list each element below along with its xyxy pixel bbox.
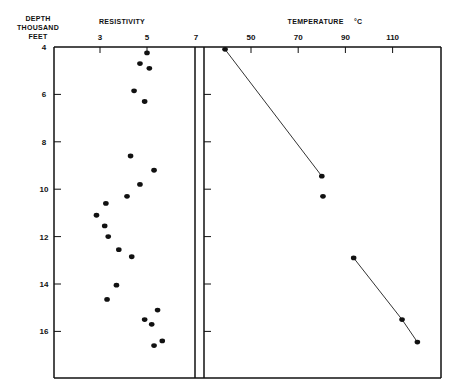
resistivity-point [151,343,157,348]
depth-tick-label: 12 [40,233,49,242]
temperature-point [319,174,325,179]
temperature-point [399,317,405,322]
resistivity-point [114,283,120,288]
resistivity-point [102,224,108,229]
resistivity-tick-label: 5 [145,33,150,42]
temperature-tick-label: 90 [341,33,350,42]
depth-tick-label: 4 [42,43,47,52]
depth-tick-label: 10 [40,185,49,194]
resistivity-point [147,66,153,71]
resistivity-point [128,154,134,159]
resistivity-point [149,322,155,327]
temperature-point [320,194,326,199]
resistivity-point [131,88,137,93]
resistivity-point [94,213,100,218]
depth-tick-label: 16 [40,327,49,336]
depth-tick-label: 6 [42,90,47,99]
temperature-point [222,47,228,52]
resistivity-point [104,297,110,302]
resistivity-point [105,234,111,239]
resistivity-point [103,201,109,206]
temperature-tick-label: 70 [294,33,303,42]
resistivity-point [151,168,157,173]
resistivity-point [159,338,165,343]
temperature-line [225,49,322,176]
resistivity-point [155,308,161,313]
resistivity-point [137,182,143,187]
resistivity-point [124,194,130,199]
resistivity-tick-label: 3 [98,33,103,42]
resistivity-tick-label: 7 [194,33,199,42]
temperature-tick-label: 50 [247,33,256,42]
temperature-point [351,256,357,261]
temperature-point [415,340,421,345]
resistivity-point [142,99,148,104]
temperature-tick-label: 110 [386,33,399,42]
resistivity-point [116,247,122,252]
resistivity-point [142,317,148,322]
resistivity-point [129,254,135,259]
depth-tick-label: 14 [40,280,49,289]
well-log-chart: 46810121416357507090110 [0,0,453,390]
resistivity-point [137,61,143,66]
depth-tick-label: 8 [42,138,47,147]
resistivity-point [144,51,150,56]
temperature-line [354,258,418,342]
